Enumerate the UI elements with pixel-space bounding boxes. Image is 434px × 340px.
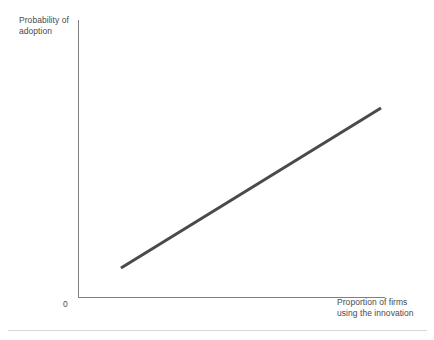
adoption-trend-line	[121, 108, 381, 268]
footer-divider	[8, 330, 427, 331]
origin-tick-label: 0	[63, 299, 68, 309]
chart-figure: Probability of adoption Proportion of fi…	[0, 0, 434, 340]
y-axis-label: Probability of adoption	[19, 15, 69, 37]
plot-area	[0, 0, 434, 340]
x-axis-label: Proportion of firms using the innovation	[337, 297, 414, 319]
